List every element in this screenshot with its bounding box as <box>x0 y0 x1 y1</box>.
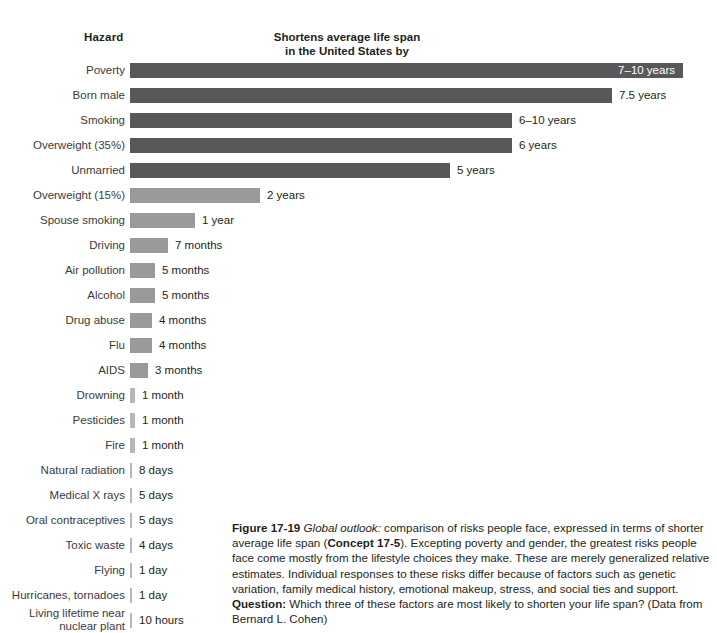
bar <box>130 288 155 303</box>
chart-row: Drowning1 month <box>0 383 717 408</box>
bar-track: 5 months <box>130 283 717 308</box>
bar <box>130 388 135 403</box>
bar-track: 5 months <box>130 258 717 283</box>
row-label: Toxic waste <box>0 533 125 558</box>
bar-value-label: 8 days <box>139 458 173 483</box>
bar-value-label: 1 month <box>142 383 184 408</box>
chart-row: Smoking6–10 years <box>0 108 717 133</box>
chart-row: Drug abuse4 months <box>0 308 717 333</box>
bar-value-label: 5 years <box>457 158 495 183</box>
row-label: Living lifetime nearnuclear plant <box>0 607 125 633</box>
bar-value-label: 7 months <box>175 233 222 258</box>
row-label: Spouse smoking <box>0 208 125 233</box>
chart-row: Overweight (35%)6 years <box>0 133 717 158</box>
chart-row: Natural radiation8 days <box>0 458 717 483</box>
figure-page: Hazard Shortens average life span in the… <box>0 0 717 633</box>
bar <box>130 238 168 253</box>
bar-value-label: 10 hours <box>139 608 184 633</box>
bar <box>130 363 148 378</box>
bar-value-label: 2 years <box>267 183 305 208</box>
figure-caption: Figure 17-19 Global outlook: comparison … <box>232 520 712 626</box>
chart-row: Overweight (15%)2 years <box>0 183 717 208</box>
bar-track: 1 month <box>130 433 717 458</box>
bar-value-label: 5 days <box>139 508 173 533</box>
bar <box>130 538 132 553</box>
row-label: Fire <box>0 433 125 458</box>
row-label: Flying <box>0 558 125 583</box>
chart-row: Medical X rays5 days <box>0 483 717 508</box>
row-label: Driving <box>0 233 125 258</box>
bar-value-label: 7.5 years <box>619 83 666 108</box>
row-label: Overweight (15%) <box>0 183 125 208</box>
chart-row: Flu4 months <box>0 333 717 358</box>
chart-row: Air pollution5 months <box>0 258 717 283</box>
bar-value-label: 1 month <box>142 433 184 458</box>
row-label: Smoking <box>0 108 125 133</box>
bar-value-label: 5 days <box>139 483 173 508</box>
row-label: Pesticides <box>0 408 125 433</box>
bar <box>130 138 512 153</box>
bar-track: 7.5 years <box>130 83 717 108</box>
bar-value-label: 6 years <box>519 133 557 158</box>
row-label: Overweight (35%) <box>0 133 125 158</box>
row-label: Born male <box>0 83 125 108</box>
chart-row: Unmarried5 years <box>0 158 717 183</box>
bar-track: 1 year <box>130 208 717 233</box>
bar <box>130 513 132 528</box>
bar-value-label: 5 months <box>162 258 209 283</box>
bar-track: 3 months <box>130 358 717 383</box>
caption-title-italic: Global outlook: <box>304 521 381 534</box>
bar <box>130 588 132 603</box>
bar-value-label: 6–10 years <box>519 108 576 133</box>
bar <box>130 338 152 353</box>
bar <box>130 488 132 503</box>
bar <box>130 438 135 453</box>
bar <box>130 313 152 328</box>
bar-value-label: 4 days <box>139 533 173 558</box>
bar-track: 2 years <box>130 183 717 208</box>
row-label: AIDS <box>0 358 125 383</box>
bar-track: 5 years <box>130 158 717 183</box>
bar-track: 7 months <box>130 233 717 258</box>
bar <box>130 413 135 428</box>
row-label: Unmarried <box>0 158 125 183</box>
chart-row: Poverty7–10 years <box>0 58 717 83</box>
bar-value-label: 1 month <box>142 408 184 433</box>
chart-row: Alcohol5 months <box>0 283 717 308</box>
column-header-measure: Shortens average life span in the United… <box>232 30 462 58</box>
chart-row: AIDS3 months <box>0 358 717 383</box>
chart-row: Spouse smoking1 year <box>0 208 717 233</box>
bar-track: 4 months <box>130 333 717 358</box>
caption-figure-number: Figure 17-19 <box>232 521 300 534</box>
bar-track: 1 month <box>130 408 717 433</box>
bar-track: 1 month <box>130 383 717 408</box>
caption-text-3: Which three of these factors are most li… <box>232 597 702 625</box>
bar <box>130 613 132 628</box>
bar-value-label: 3 months <box>155 358 202 383</box>
row-label: Hurricanes, tornadoes <box>0 583 125 608</box>
bar-value-label: 4 months <box>159 308 206 333</box>
bar-value-label: 5 months <box>162 283 209 308</box>
bar-track: 6 years <box>130 133 717 158</box>
column-header-measure-line2: in the United States by <box>232 44 462 58</box>
bar <box>130 563 132 578</box>
row-label: Alcohol <box>0 283 125 308</box>
column-header-hazard: Hazard <box>84 31 124 43</box>
chart-row: Driving7 months <box>0 233 717 258</box>
row-label: Medical X rays <box>0 483 125 508</box>
row-label: Drug abuse <box>0 308 125 333</box>
bar-track: 4 months <box>130 308 717 333</box>
bar-value-label: 4 months <box>159 333 206 358</box>
row-label: Air pollution <box>0 258 125 283</box>
bar-track: 5 days <box>130 483 717 508</box>
bar-value-label: 1 year <box>202 208 234 233</box>
column-header-measure-line1: Shortens average life span <box>232 30 462 44</box>
bar <box>130 113 512 128</box>
row-label: Drowning <box>0 383 125 408</box>
bar <box>130 63 683 78</box>
bar-track: 6–10 years <box>130 108 717 133</box>
bar <box>130 163 450 178</box>
bar <box>130 263 155 278</box>
caption-concept-ref: Concept 17-5 <box>327 536 400 549</box>
row-label: Natural radiation <box>0 458 125 483</box>
